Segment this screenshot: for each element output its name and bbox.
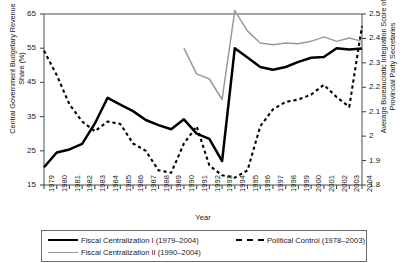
right-tick-label-3: 2.1 — [369, 107, 395, 116]
left-tick-label-3: 45 — [10, 77, 36, 86]
legend-swatch-dashed-black — [236, 239, 264, 241]
x-tick-label-0: 1979 — [47, 175, 56, 192]
x-tick-label-22: 2001 — [327, 175, 336, 192]
x-tick-label-16: 1995 — [251, 175, 260, 192]
x-tick-label-6: 1985 — [124, 175, 133, 192]
legend-label-1: Political Control (1978–2003) — [267, 236, 365, 245]
left-tick-label-1: 25 — [10, 146, 36, 155]
x-tick-label-11: 1990 — [187, 175, 196, 192]
x-tick-label-1: 1980 — [60, 175, 69, 192]
left-tick-label-2: 35 — [10, 112, 36, 121]
legend-label-0: Fiscal Centralization I (1979–2004) — [81, 236, 199, 245]
legend-item-fiscal-centralization-2: Fiscal Centralization II (1990–2004) — [48, 247, 201, 257]
x-tick-label-23: 2002 — [340, 175, 349, 192]
x-tick-label-10: 1989 — [174, 175, 183, 192]
legend-swatch-solid-gray — [48, 252, 78, 253]
x-tick-label-15: 1994 — [238, 175, 247, 192]
x-tick-label-4: 1983 — [98, 175, 107, 192]
x-tick-label-8: 1987 — [149, 175, 158, 192]
legend-item-political-control: Political Control (1978–2003) — [236, 235, 365, 245]
x-tick-label-18: 1997 — [276, 175, 285, 192]
right-tick-label-1: 1.9 — [369, 156, 395, 165]
x-tick-label-24: 2003 — [352, 175, 361, 192]
legend-item-fiscal-centralization-1: Fiscal Centralization I (1979–2004) — [48, 235, 199, 245]
right-tick-label-5: 2.3 — [369, 58, 395, 67]
left-tick-label-5: 65 — [10, 9, 36, 18]
x-tick-label-25: 2004 — [365, 175, 374, 192]
x-tick-label-20: 1999 — [302, 175, 311, 192]
x-tick-label-9: 1988 — [162, 175, 171, 192]
x-tick-label-12: 1991 — [200, 175, 209, 192]
x-tick-label-5: 1984 — [111, 175, 120, 192]
legend-label-2: Fiscal Centralization II (1990–2004) — [81, 248, 201, 257]
legend-swatch-solid-black — [48, 239, 78, 241]
x-tick-label-7: 1986 — [136, 175, 145, 192]
x-tick-label-17: 1996 — [263, 175, 272, 192]
x-tick-label-2: 1981 — [73, 175, 82, 192]
right-tick-label-7: 2.5 — [369, 9, 395, 18]
x-tick-label-19: 1998 — [289, 175, 298, 192]
x-tick-label-13: 1992 — [213, 175, 222, 192]
x-tick-label-3: 1982 — [85, 175, 94, 192]
chart-canvas — [0, 0, 408, 263]
left-tick-label-4: 55 — [10, 43, 36, 52]
right-tick-label-2: 2 — [369, 131, 395, 140]
left-tick-label-0: 15 — [10, 180, 36, 189]
x-tick-label-14: 1993 — [225, 175, 234, 192]
legend: Fiscal Centralization I (1979–2004) Poli… — [41, 230, 367, 262]
right-tick-label-6: 2.4 — [369, 33, 395, 42]
x-tick-label-21: 2000 — [314, 175, 323, 192]
right-tick-label-4: 2.2 — [369, 82, 395, 91]
